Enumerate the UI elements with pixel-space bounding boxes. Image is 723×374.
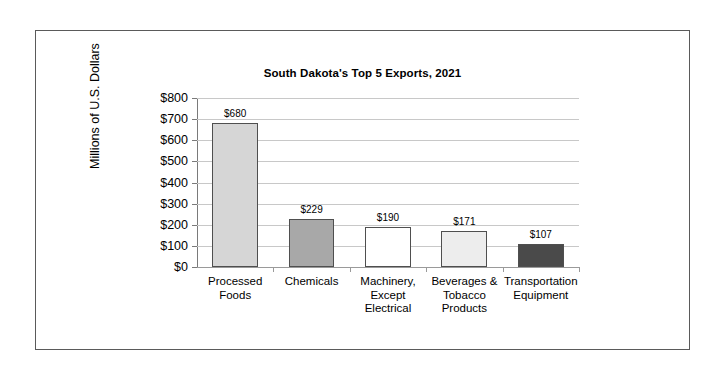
y-axis-tick-label: $300	[160, 197, 188, 211]
bar[interactable]	[289, 219, 335, 267]
y-axis-tick-label: $400	[160, 176, 188, 190]
bar-slot: $107	[503, 98, 579, 267]
x-axis-tick	[579, 267, 580, 272]
y-axis-tick-label: $100	[160, 239, 188, 253]
category-label-line: Processed	[197, 275, 273, 289]
bar-slot: $229	[273, 98, 349, 267]
category-label-line: Tobacco	[426, 289, 502, 303]
plot-area: $0$100$200$300$400$500$600$700$800 $680$…	[197, 98, 579, 267]
category-label-line: Beverages &	[426, 275, 502, 289]
category-label-line: Electrical	[350, 302, 426, 316]
y-axis-tick-label: $0	[174, 260, 188, 274]
y-axis-tick-label: $600	[160, 133, 188, 147]
x-axis-category-label: ProcessedFoods	[197, 275, 273, 302]
bar-value-label: $190	[350, 212, 426, 223]
bar[interactable]	[212, 123, 258, 267]
y-axis-tick-label: $800	[160, 91, 188, 105]
category-label-line: Machinery,	[350, 275, 426, 289]
x-axis-tick	[426, 267, 427, 272]
category-label-line: Products	[426, 302, 502, 316]
bar[interactable]	[441, 231, 487, 267]
bar-value-label: $229	[273, 204, 349, 215]
bar[interactable]	[518, 244, 564, 267]
y-axis-tick-label: $200	[160, 218, 188, 232]
y-axis-title: Millions of U.S. Dollars	[88, 11, 102, 201]
x-axis-tick	[503, 267, 504, 272]
x-axis-category-label: Chemicals	[273, 275, 349, 289]
bar-slot: $680	[197, 98, 273, 267]
chart-page: South Dakota's Top 5 Exports, 2021 Milli…	[0, 0, 723, 374]
gridline	[197, 267, 579, 268]
bar-slot: $190	[350, 98, 426, 267]
bar-value-label: $171	[426, 216, 502, 227]
category-label-line: Except	[350, 289, 426, 303]
y-axis-tick-label: $700	[160, 112, 188, 126]
y-axis-tick	[192, 267, 197, 268]
bar[interactable]	[365, 227, 411, 267]
category-label-line: Transportation	[503, 275, 579, 289]
bar-slot: $171	[426, 98, 502, 267]
y-axis-tick-label: $500	[160, 154, 188, 168]
figure-frame: South Dakota's Top 5 Exports, 2021 Milli…	[35, 30, 690, 350]
category-label-line: Foods	[197, 289, 273, 303]
x-axis-category-label: Machinery,ExceptElectrical	[350, 275, 426, 316]
x-axis-tick	[273, 267, 274, 272]
category-label-line: Chemicals	[273, 275, 349, 289]
chart-title: South Dakota's Top 5 Exports, 2021	[36, 67, 689, 79]
bar-value-label: $680	[197, 108, 273, 119]
x-axis-category-label: Beverages &TobaccoProducts	[426, 275, 502, 316]
x-axis-category-label: TransportationEquipment	[503, 275, 579, 302]
bar-value-label: $107	[503, 229, 579, 240]
category-label-line: Equipment	[503, 289, 579, 303]
x-axis-tick	[350, 267, 351, 272]
